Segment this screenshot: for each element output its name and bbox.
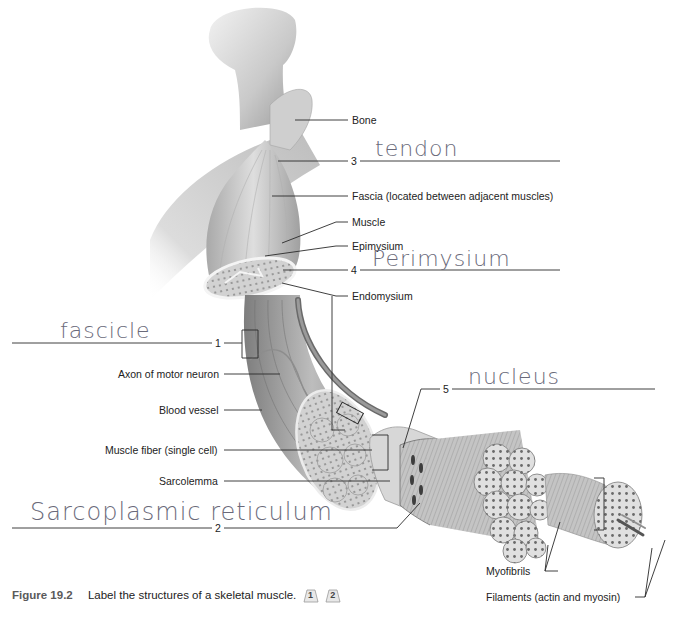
myofibril-cross-section xyxy=(594,482,642,548)
figure-caption: Figure 19.2 Label the structures of a sk… xyxy=(12,589,341,603)
label-muscle: Muscle xyxy=(352,216,385,228)
answer-4-perimysium[interactable]: Perimysium xyxy=(372,246,511,271)
badge-icon-1: 1 xyxy=(303,589,319,603)
label-axon: Axon of motor neuron xyxy=(118,368,219,380)
blank-number-5: 5 xyxy=(443,383,449,395)
label-endomysium: Endomysium xyxy=(352,290,413,302)
answer-2-sarcoplasmic-reticulum[interactable]: Sarcoplasmic reticulum xyxy=(30,498,333,526)
label-filaments: Filaments (actin and myosin) xyxy=(486,591,620,603)
label-myofibrils: Myofibrils xyxy=(486,565,530,577)
blank-number-3: 3 xyxy=(351,155,357,167)
label-bone: Bone xyxy=(352,114,377,126)
blank-number-1: 1 xyxy=(215,337,221,349)
answer-1-fascicle[interactable]: fascicle xyxy=(60,318,151,343)
answer-5-nucleus[interactable]: nucleus xyxy=(468,364,560,389)
muscle-illustration xyxy=(0,0,677,621)
answer-3-tendon[interactable]: tendon xyxy=(375,136,458,161)
label-blood-vessel: Blood vessel xyxy=(159,404,219,416)
blank-number-4: 4 xyxy=(351,264,357,276)
figure-number: Figure 19.2 xyxy=(12,589,73,601)
skeletal-muscle-figure: Bone Fascia (located between adjacent mu… xyxy=(0,0,677,621)
label-sarcolemma: Sarcolemma xyxy=(159,475,218,487)
myofibrils-bundle xyxy=(425,430,550,563)
badge-icon-2: 2 xyxy=(325,589,341,603)
label-muscle-fiber: Muscle fiber (single cell) xyxy=(105,444,218,456)
label-fascia: Fascia (located between adjacent muscles… xyxy=(352,190,553,202)
figure-caption-text: Label the structures of a skeletal muscl… xyxy=(88,589,296,601)
